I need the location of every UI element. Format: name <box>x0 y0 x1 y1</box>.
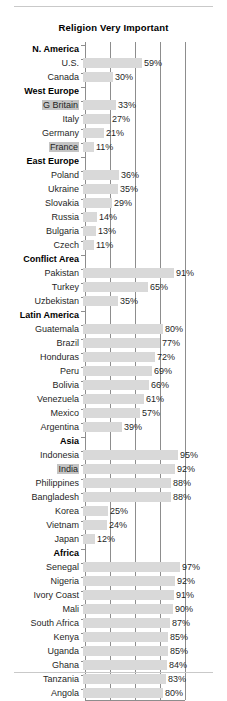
country-bar-row: Canada30% <box>0 70 227 84</box>
row-label: Tanzania <box>0 672 83 686</box>
country-bar-row: Poland36% <box>0 168 227 182</box>
bar-track <box>83 434 227 448</box>
bar <box>83 492 171 502</box>
bar-track: 72% <box>83 350 227 364</box>
country-bar-row: Honduras72% <box>0 350 227 364</box>
bar-value-label: 91% <box>174 588 194 602</box>
bar-track: 11% <box>83 140 227 154</box>
bar <box>83 338 160 348</box>
bar-track: 29% <box>83 196 227 210</box>
country-bar-row: Peru69% <box>0 364 227 378</box>
bar-track: 36% <box>83 168 227 182</box>
bar-value-label: 61% <box>144 392 164 406</box>
bar <box>83 646 168 656</box>
row-label: Italy <box>0 112 83 126</box>
country-bar-row: Russia14% <box>0 210 227 224</box>
bar-value-label: 35% <box>118 294 138 308</box>
country-bar-row: Nigeria92% <box>0 574 227 588</box>
country-bar-row: Indonesia95% <box>0 448 227 462</box>
bar-value-label: 87% <box>170 616 190 630</box>
bar-value-label: 27% <box>110 112 130 126</box>
row-label: Uzbekistan <box>0 294 83 308</box>
row-label: Russia <box>0 210 83 224</box>
bar <box>83 520 107 530</box>
row-label: Bulgaria <box>0 224 83 238</box>
bar-track: 25% <box>83 504 227 518</box>
row-label: Latin America <box>0 308 83 322</box>
bar-value-label: 11% <box>94 238 113 252</box>
bar-value-label: 21% <box>104 126 124 140</box>
bar-track: 65% <box>83 280 227 294</box>
bar-track: 92% <box>83 574 227 588</box>
row-label: Czech <box>0 238 83 252</box>
row-label: U.S. <box>0 56 83 70</box>
bar-value-label: 97% <box>180 560 200 574</box>
bar-track <box>83 308 227 322</box>
bar-value-label: 85% <box>168 644 188 658</box>
bar-value-label: 65% <box>148 280 168 294</box>
row-label: Angola <box>0 686 83 700</box>
bar-track: 69% <box>83 364 227 378</box>
region-header-row: Latin America <box>0 308 227 322</box>
row-label: Canada <box>0 70 83 84</box>
bar-value-label: 39% <box>122 420 142 434</box>
bar-track: 24% <box>83 518 227 532</box>
row-label: Argentina <box>0 420 83 434</box>
bar-track: 35% <box>83 294 227 308</box>
bar-value-label: 30% <box>113 70 133 84</box>
row-label: Ivory Coast <box>0 588 83 602</box>
bar-value-label: 13% <box>96 224 116 238</box>
bar-value-label: 77% <box>160 336 180 350</box>
row-label: France <box>0 140 83 154</box>
bar-value-label: 12% <box>95 532 115 546</box>
bar <box>83 562 180 572</box>
bar-track: 92% <box>83 462 227 476</box>
bar-track: 33% <box>83 98 227 112</box>
bar-track: 85% <box>83 644 227 658</box>
country-bar-row: South Africa87% <box>0 616 227 630</box>
bar-value-label: 36% <box>119 168 139 182</box>
bar-value-label: 33% <box>116 98 136 112</box>
bar-track: 30% <box>83 70 227 84</box>
row-label: Mali <box>0 602 83 616</box>
bar-value-label: 24% <box>107 518 127 532</box>
bar-value-label: 35% <box>118 182 138 196</box>
bar-value-label: 11% <box>94 140 113 154</box>
bar <box>83 100 116 110</box>
bar <box>83 184 118 194</box>
row-label: Conflict Area <box>0 252 83 266</box>
bar <box>83 114 110 124</box>
row-label: Guatemala <box>0 322 83 336</box>
row-label: Mexico <box>0 406 83 420</box>
bar-value-label: 92% <box>175 574 195 588</box>
bar-track: 13% <box>83 224 227 238</box>
bar-value-label: 72% <box>155 350 175 364</box>
bar-value-label: 95% <box>178 448 198 462</box>
bar-track: 66% <box>83 378 227 392</box>
bar-track: 35% <box>83 182 227 196</box>
bar <box>83 632 168 642</box>
bar-track: 12% <box>83 532 227 546</box>
country-bar-row: Japan12% <box>0 532 227 546</box>
bar-track: 90% <box>83 602 227 616</box>
bar-track: 84% <box>83 658 227 672</box>
row-label: N. America <box>0 42 83 56</box>
bar-track: 87% <box>83 616 227 630</box>
bar-value-label: 85% <box>168 630 188 644</box>
country-bar-row: India92% <box>0 462 227 476</box>
bar-value-label: 83% <box>166 672 186 686</box>
row-label: Slovakia <box>0 196 83 210</box>
bar-value-label: 88% <box>171 490 191 504</box>
chart-rows: N. AmericaU.S.59%Canada30%West EuropeG B… <box>0 42 227 700</box>
bar <box>83 142 94 152</box>
bar-value-label: 57% <box>140 406 160 420</box>
bar <box>83 674 166 684</box>
bar <box>83 240 94 250</box>
row-label: South Africa <box>0 616 83 630</box>
country-bar-row: Tanzania83% <box>0 672 227 686</box>
bar-track: 95% <box>83 448 227 462</box>
country-bar-row: Pakistan91% <box>0 266 227 280</box>
row-label: Pakistan <box>0 266 83 280</box>
row-label: Brazil <box>0 336 83 350</box>
bar-track <box>83 252 227 266</box>
